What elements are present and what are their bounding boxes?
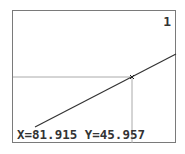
trace-coordinates: X=81.915 Y=45.957 bbox=[17, 127, 145, 142]
trace-y-value: Y=45.957 bbox=[85, 127, 145, 142]
function-graph-line bbox=[35, 54, 176, 127]
graph-index-label: 1 bbox=[163, 14, 171, 29]
trace-x-value: X=81.915 bbox=[17, 127, 77, 142]
